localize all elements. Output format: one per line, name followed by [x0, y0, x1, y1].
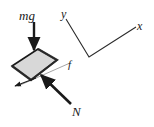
normal-force-vector-arrow: [41, 75, 71, 104]
free-body-diagram-figure: mg y x f N: [0, 0, 154, 127]
friction-label: f: [68, 59, 71, 70]
weight-label: mg: [19, 9, 35, 22]
normal-force-label: N: [72, 105, 81, 118]
x-axis-label: x: [137, 20, 142, 32]
y-axis-label: y: [61, 8, 66, 20]
coordinate-axes: [66, 19, 136, 57]
friction-vector-arrow: [15, 78, 36, 86]
